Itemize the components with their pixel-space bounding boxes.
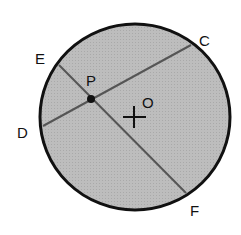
label-o: O	[142, 94, 154, 111]
circle-diagram: E C D F P O	[0, 0, 241, 235]
label-p: P	[86, 72, 96, 89]
label-f: F	[190, 202, 199, 219]
label-c: C	[199, 32, 210, 49]
label-d: D	[17, 124, 28, 141]
label-e: E	[35, 50, 45, 67]
point-p-dot	[87, 95, 95, 103]
